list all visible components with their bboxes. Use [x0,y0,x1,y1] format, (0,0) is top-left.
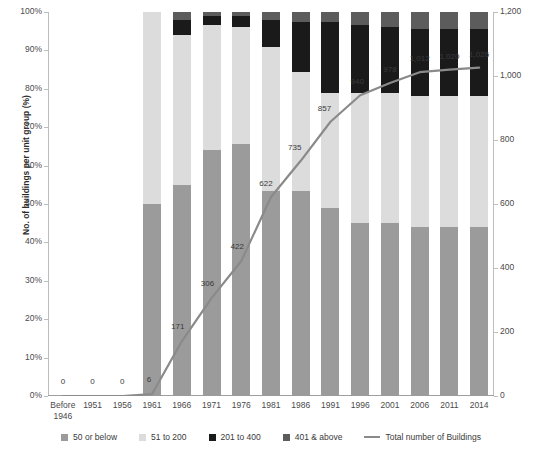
plot-area: 0%10%20%30%40%50%60%70%80%90%100% 020040… [48,12,494,396]
legend-swatch-icon [283,434,290,441]
legend-item-0[interactable]: 50 or below [61,432,117,442]
line-point-label: 857 [318,105,331,113]
bar-segment [381,12,399,27]
bar-segment [411,227,429,396]
bar-segment [232,16,250,28]
bar-segment [411,12,429,29]
y-tick-label-right: 800 [500,135,514,144]
bar-1961 [143,12,161,396]
bar-segment [440,12,458,29]
y-tick-right [494,12,498,13]
bar-segment [292,72,310,191]
bar-segment [262,12,280,20]
bar-segment [292,12,310,22]
x-tick-label: 1986 [291,400,310,411]
bar-segment [292,22,310,72]
bar-1991 [321,12,339,396]
bar-segment [440,29,458,96]
y-tick-label-right: 1,000 [500,71,521,80]
bar-segment [262,20,280,47]
line-point-label: 0 [61,378,65,386]
legend: 50 or below51 to 200201 to 400401 & abov… [0,432,542,442]
bar-segment [440,227,458,396]
bar-segment [381,93,399,224]
legend-label: 201 to 400 [221,432,261,442]
bar-1981 [262,12,280,396]
line-point-label: 940 [351,78,364,86]
y-tick-label-left: 90% [25,45,42,54]
bar-segment [351,93,369,224]
bar-segment [411,96,429,227]
y-tick-label-right: 1,200 [500,7,521,16]
y-tick-right [494,76,498,77]
bar-2006 [411,12,429,396]
bar-segment [321,208,339,396]
x-tick-label: 1996 [351,400,370,411]
bar-segment [232,144,250,396]
x-axis-labels: Before1946195119561961196619711976198119… [48,400,494,428]
x-tick-label: 1956 [113,400,132,411]
legend-label: 401 & above [295,432,343,442]
y-tick-right [494,396,498,397]
y-tick-label-left: 80% [25,84,42,93]
bar-1986 [292,12,310,396]
bar-segment [470,96,488,227]
line-point-label: 171 [171,323,184,331]
bar-2011 [440,12,458,396]
y-tick-left [44,396,48,397]
y-tick-label-left: 50% [25,199,42,208]
bar-segment [351,223,369,396]
bar-1976 [232,12,250,396]
legend-item-2[interactable]: 201 to 400 [209,432,261,442]
y-tick-right [494,140,498,141]
x-tick-label: 1971 [202,400,221,411]
legend-label: 50 or below [73,432,117,442]
line-point-label: 1,026 [469,51,489,59]
legend-item-1[interactable]: 51 to 200 [139,432,186,442]
y-tick-label-left: 70% [25,122,42,131]
legend-label: Total number of Buildings [385,432,480,442]
line-point-label: 0 [120,378,124,386]
y-tick-label-left: 100% [20,7,42,16]
bar-segment [321,22,339,93]
bar-segment [381,223,399,396]
bar-series-group [48,12,494,396]
y-tick-label-right: 0 [500,391,505,400]
bar-segment [470,12,488,29]
x-tick-label: 2006 [410,400,429,411]
x-tick-label: 2014 [470,400,489,411]
x-tick-label: 2001 [380,400,399,411]
bar-segment [470,29,488,96]
legend-line-icon [364,436,380,438]
legend-item-3[interactable]: 401 & above [283,432,343,442]
line-point-label: 1,012 [410,55,430,63]
y-tick-label-left: 40% [25,237,42,246]
line-point-label: 0 [90,378,94,386]
legend-item-4[interactable]: Total number of Buildings [364,432,480,442]
legend-swatch-icon [209,434,216,441]
y-tick-label-right: 200 [500,327,514,336]
bar-segment [173,12,191,20]
bar-segment [203,150,221,396]
bar-segment [203,16,221,26]
x-tick-label: 2011 [440,400,458,411]
y-tick-right [494,268,498,269]
bar-segment [143,12,161,204]
y-tick-label-left: 20% [25,314,42,323]
bar-segment [262,47,280,191]
bar-segment [173,35,191,185]
y-tick-label-left: 30% [25,276,42,285]
y-tick-right [494,332,498,333]
bar-1966 [173,12,191,396]
line-point-label: 978 [383,66,396,74]
bar-segment [232,27,250,144]
bar-2014 [470,12,488,396]
x-tick-label: Before1946 [50,400,75,422]
bar-1996 [351,12,369,396]
x-tick-label: 1951 [83,400,102,411]
y-tick-right [494,204,498,205]
bar-segment [470,227,488,396]
line-point-label: 422 [231,243,244,251]
bar-segment [321,12,339,22]
bar-segment [173,20,191,35]
